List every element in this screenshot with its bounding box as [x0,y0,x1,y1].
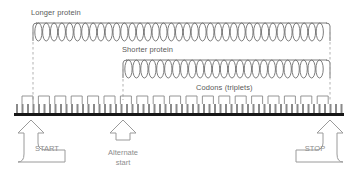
longer-protein-coil [33,23,330,41]
mrna-tick [341,104,343,113]
longer-protein-loop [113,23,120,41]
mrna-tick [291,104,293,113]
longer-protein-loop [238,23,245,41]
longer-protein-loop [215,23,222,41]
mrna-tick [302,104,304,113]
longer-protein-label: Longer protein [31,8,81,17]
longer-protein-loop [175,23,182,41]
shorter-protein-loop [173,60,180,78]
longer-protein-loop [105,23,112,41]
mrna-tick [66,104,68,113]
protein-connector-lines [33,32,330,100]
mrna-tick [242,104,244,113]
alternate-start-callout-label: Alternate start [99,148,147,167]
codon-bracket [252,96,263,104]
mrna-tick [55,104,57,113]
codon-bracket [202,96,213,104]
mrna-tick [264,104,266,113]
longer-protein-loop [246,23,253,41]
mrna-tick [148,104,150,113]
longer-protein-loop [66,23,73,41]
longer-protein-loop [277,23,284,41]
shorter-protein-loop [244,60,251,78]
mrna-tick [99,104,101,113]
longer-protein-loop [152,23,159,41]
shorter-protein-loop [133,60,140,78]
mrna-tick [198,104,200,113]
mrna-tick [247,104,249,113]
shorter-protein-loop [220,60,227,78]
mrna-tick [77,104,79,113]
mrna-tick [165,104,167,113]
codon-bracket [137,96,148,104]
mrna-tick [297,104,299,113]
translation-diagram-svg [0,0,357,182]
shorter-protein-loop [252,60,259,78]
longer-protein-loop [121,23,128,41]
longer-protein-loop [129,23,136,41]
mrna-tick [319,104,321,113]
codon-bracket [186,96,197,104]
codon-bracket [88,96,99,104]
callout-arrow-alternate-start [110,120,136,140]
mrna-tick [60,104,62,113]
mrna-tick [286,104,288,113]
codon-bracket [301,96,312,104]
mrna-tick [335,104,337,113]
longer-protein-loop [50,23,57,41]
longer-protein-loop [90,23,97,41]
mrna-tick [324,104,326,113]
mrna-tick [16,104,18,113]
start-callout-label: START [25,144,69,154]
shorter-protein-loop [276,60,283,78]
mrna-tick [38,104,40,113]
codon-bracket [284,96,295,104]
mrna-tick [214,104,216,113]
mrna-tick [44,104,46,113]
longer-protein-loop [168,23,175,41]
mrna-tick [231,104,233,113]
codon-bracket [153,96,164,104]
shorter-protein-loop [149,60,156,78]
mrna-tick-marks [16,104,343,113]
mrna-tick [137,104,139,113]
mrna-tick [49,104,51,113]
mrna-tick [176,104,178,113]
shorter-protein-loop [204,60,211,78]
stop-callout-label: STOP [296,144,334,154]
codon-bracket [22,96,33,104]
shorter-protein-loop [228,60,235,78]
shorter-protein-loop [125,60,132,78]
shorter-protein-loop [236,60,243,78]
callout-arrow-stop [296,120,343,162]
mrna-tick [71,104,73,113]
codon-bracket [317,96,328,104]
mrna-tick [253,104,255,113]
shorter-protein-coil [123,60,330,78]
longer-protein-loop [58,23,65,41]
mrna-tick [110,104,112,113]
mrna-tick [154,104,156,113]
longer-protein-loop [254,23,261,41]
shorter-protein-loop [196,60,203,78]
mrna-tick [308,104,310,113]
longer-protein-loop [308,23,315,41]
longer-protein-loop [35,23,42,41]
mrna-tick [121,104,123,113]
mrna-tick [280,104,282,113]
mrna-tick [132,104,134,113]
mrna-tick [88,104,90,113]
mrna-tick [225,104,227,113]
longer-protein-loop [199,23,206,41]
mrna-tick [115,104,117,113]
longer-protein-loop [285,23,292,41]
mrna-tick [143,104,145,113]
shorter-protein-loop [157,60,164,78]
shorter-protein-cap-right [326,60,330,78]
mrna-tick [187,104,189,113]
longer-protein-loop [97,23,104,41]
mrna-tick [275,104,277,113]
mrna-tick [330,104,332,113]
codon-bracket [235,96,246,104]
longer-protein-loop [183,23,190,41]
